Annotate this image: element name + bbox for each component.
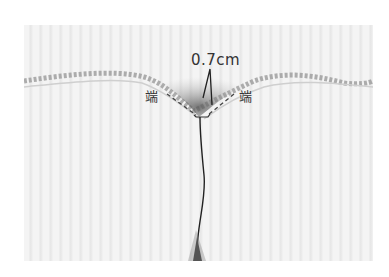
fabric-photo: 0.7cm 端 端 bbox=[24, 25, 373, 261]
right-end-label: 端 bbox=[239, 90, 252, 103]
left-end-label: 端 bbox=[145, 90, 158, 103]
measurement-label: 0.7cm bbox=[191, 53, 240, 68]
